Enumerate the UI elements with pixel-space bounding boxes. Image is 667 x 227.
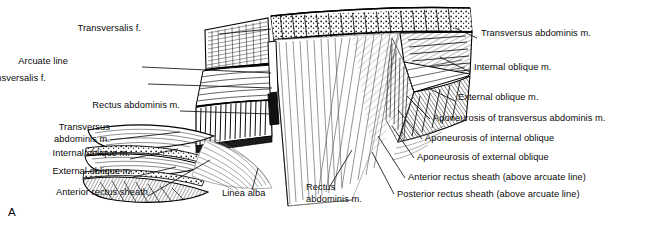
label-aponeurosis-of-transversus-abdominis-m: Aponeurosis of transversus abdominis m.: [433, 113, 605, 125]
label-posterior-rectus-sheath-above-arcuate-line: Posterior rectus sheath (above arcuate l…: [397, 189, 580, 201]
label-internal-oblique-m-left: Internal oblique m.: [53, 148, 130, 160]
label-transversalis-f-top: Transversalis f.: [78, 23, 141, 35]
label-anterior-rectus-sheath-above-arcuate-line: Anterior rectus sheath (above arcuate li…: [408, 172, 586, 184]
label-transversus-abdominis-m-right: Transversus abdominis m.: [481, 28, 591, 40]
label-internal-oblique-m-right: Internal oblique m.: [474, 62, 551, 74]
label-aponeurosis-of-internal-oblique: Aponeurosis of internal oblique: [425, 133, 554, 145]
panel-letter: A: [8, 206, 16, 218]
label-aponeurosis-of-external-oblique: Aponeurosis of external oblique: [417, 152, 549, 164]
label-arcuate-line: Arcuate line: [18, 56, 68, 68]
label-external-oblique-m-right: External oblique m.: [458, 92, 539, 104]
label-rectus-abdominis-m-left: Rectus abdominis m.: [92, 100, 180, 112]
label-linea-alba: Linea alba: [222, 188, 265, 200]
label-external-oblique-m-left: External oblique m.: [52, 166, 133, 178]
label-transversus-abdominis-m-left: Transversus abdominis m.: [54, 122, 110, 145]
anatomy-figure-panel-a: Transversalis f. Arcuate line Transversa…: [0, 0, 667, 227]
label-anterior-rectus-sheath-left: Anterior rectus sheath: [56, 187, 148, 199]
label-transversalis-f-mid: Transversalis f.: [0, 73, 46, 85]
label-rectus-abdominis-m-center: Rectus abdominis m.: [306, 182, 362, 205]
